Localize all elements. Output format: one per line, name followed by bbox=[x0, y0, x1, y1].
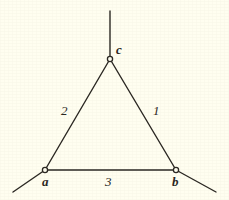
vertex-label-c: c bbox=[116, 43, 122, 56]
vertex-label-a: a bbox=[42, 175, 49, 188]
edge-label-1: 1 bbox=[153, 104, 160, 117]
vertex-marker-a bbox=[42, 167, 47, 172]
edge-c-b bbox=[110, 59, 176, 170]
pendant-edge-a bbox=[13, 170, 45, 192]
pendant-edge-b bbox=[176, 170, 216, 192]
vertex-marker-c bbox=[107, 56, 112, 61]
edge-label-3: 3 bbox=[105, 175, 112, 188]
diagram-canvas bbox=[0, 0, 229, 200]
vertex-label-b: b bbox=[172, 175, 179, 188]
edge-a-c bbox=[45, 59, 110, 170]
vertex-marker-b bbox=[173, 167, 178, 172]
edge-label-2: 2 bbox=[61, 104, 68, 117]
triangle-graph-figure: c a b 1 2 3 bbox=[0, 0, 229, 200]
